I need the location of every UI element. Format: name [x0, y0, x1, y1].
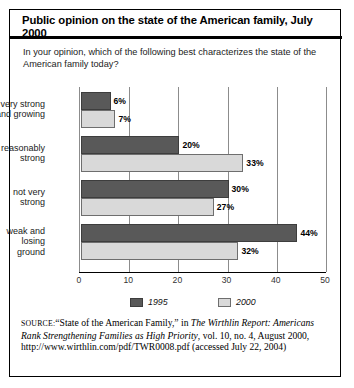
- chart-legend: 19952000: [10, 295, 342, 311]
- x-tick-label-20: 20: [164, 275, 190, 285]
- gridline-40: [277, 87, 278, 272]
- question-text: In your opinion, which of the following …: [23, 46, 323, 71]
- bar-2000-0: [81, 110, 115, 128]
- bar-1995-3: [81, 224, 297, 242]
- bar-value-1995-3: 44%: [300, 224, 317, 242]
- legend-label-1995: 1995: [148, 297, 168, 307]
- plot-area: [79, 87, 326, 272]
- bar-1995-0: [81, 92, 111, 110]
- bar-value-2000-0: 7%: [118, 110, 130, 128]
- bar-value-2000-3: 32%: [241, 242, 258, 260]
- x-tick-label-10: 10: [115, 275, 141, 285]
- legend-swatch-1995: [130, 298, 143, 307]
- title-divider: [10, 36, 342, 39]
- category-label-2: not verystrong: [0, 187, 45, 208]
- x-tick-label-50: 50: [312, 275, 338, 285]
- bar-1995-1: [81, 136, 179, 154]
- figure-container: Public opinion on the state of the Ameri…: [9, 9, 341, 377]
- x-tick-label-30: 30: [214, 275, 240, 285]
- title-bar: Public opinion on the state of the Ameri…: [10, 10, 340, 37]
- x-axis-line: [79, 272, 326, 273]
- legend-item-2000: 2000: [218, 295, 256, 309]
- gridline-50: [326, 87, 327, 272]
- category-label-3: weak andlosingground: [0, 226, 45, 258]
- legend-item-1995: 1995: [130, 295, 168, 309]
- bar-value-2000-2: 27%: [217, 198, 234, 216]
- bar-value-1995-2: 30%: [232, 180, 249, 198]
- bar-2000-1: [81, 154, 243, 172]
- source-note: Source:“State of the American Family,” i…: [21, 317, 329, 353]
- bar-2000-3: [81, 242, 238, 260]
- category-label-0: very strongand growing: [0, 99, 45, 120]
- bar-value-1995-1: 20%: [182, 136, 199, 154]
- legend-swatch-2000: [218, 298, 231, 307]
- bar-1995-2: [81, 180, 229, 198]
- bar-2000-2: [81, 198, 214, 216]
- category-label-1: reasonablystrong: [0, 143, 45, 164]
- x-tick-label-0: 0: [66, 275, 92, 285]
- bar-value-2000-1: 33%: [246, 154, 263, 172]
- x-tick-label-40: 40: [263, 275, 289, 285]
- source-text-1: “State of the American Family,” in: [55, 317, 191, 328]
- source-label: Source:: [21, 319, 55, 328]
- bar-value-1995-0: 6%: [114, 92, 126, 110]
- legend-label-2000: 2000: [236, 297, 256, 307]
